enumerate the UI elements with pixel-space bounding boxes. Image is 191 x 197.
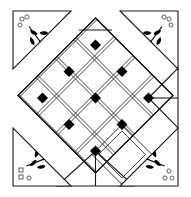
berry-icon	[27, 176, 31, 180]
berry-icon	[25, 15, 29, 19]
berry-icon	[170, 176, 174, 180]
berry-icon	[19, 168, 23, 172]
berry-icon	[18, 23, 22, 27]
berry-icon	[167, 17, 171, 21]
berry-icon	[163, 176, 167, 180]
berry-icon	[169, 23, 173, 27]
berry-icon	[167, 169, 171, 173]
quilt-block-diagram: Quilt Block Diagram Square quilt block w…	[0, 0, 191, 197]
berry-icon	[162, 15, 166, 19]
berry-icon	[19, 175, 23, 179]
quilt-diagram-canvas	[0, 0, 191, 197]
berry-icon	[20, 17, 24, 21]
